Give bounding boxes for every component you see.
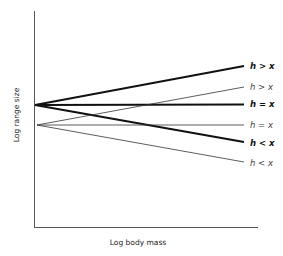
label-thin-h-lt-x: h < x [250, 158, 274, 168]
x-axis-label: Log body mass [110, 238, 167, 247]
line-bold-h-lt-x [35, 105, 244, 142]
line-bold-h-eq-x [35, 105, 244, 106]
label-bold-h-eq-x: h = x [250, 99, 275, 109]
label-bold-h-gt-x: h > x [250, 61, 275, 71]
y-axis-label: Log range size [12, 87, 21, 142]
label-thin-h-gt-x: h > x [250, 82, 274, 92]
line-thin-h-gt-x [37, 87, 244, 125]
label-bold-h-lt-x: h < x [250, 138, 275, 148]
line-bold-h-gt-x [35, 66, 244, 105]
line-thin-h-lt-x [37, 125, 244, 162]
range-size-diagram: h > x h > x h = x h = x h < x h < x Log … [0, 0, 283, 256]
label-thin-h-eq-x: h = x [250, 120, 274, 130]
